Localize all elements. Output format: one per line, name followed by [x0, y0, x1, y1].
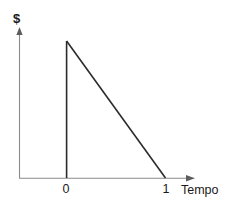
series-linear-decline	[67, 41, 166, 178]
plot-canvas	[0, 0, 229, 206]
chart-figure: $ Tempo 0 1	[0, 0, 229, 206]
x-axis-arrow-icon	[186, 175, 195, 181]
x-tick-label-0: 0	[56, 183, 76, 196]
y-axis-arrow-icon	[16, 27, 22, 35]
x-axis-title: Tempo	[181, 184, 219, 197]
x-tick-label-1: 1	[156, 183, 176, 196]
y-axis-title: $	[13, 12, 20, 25]
